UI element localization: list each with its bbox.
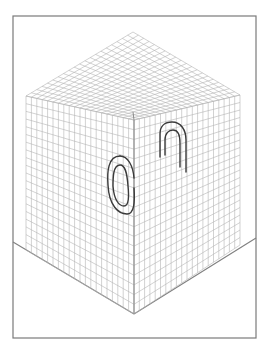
top-grid-line: [128, 35, 235, 96]
cube-diagram: [0, 0, 269, 353]
top-grid-line: [133, 32, 240, 95]
figure: Isometric grid cube with paperclip illus…: [0, 0, 269, 353]
left-face-grid: [26, 96, 134, 314]
floor-line-right: [134, 238, 256, 314]
top-grid-line: [122, 38, 229, 97]
cube-edges: [133, 112, 134, 314]
front-edge-extension: [133, 112, 134, 120]
